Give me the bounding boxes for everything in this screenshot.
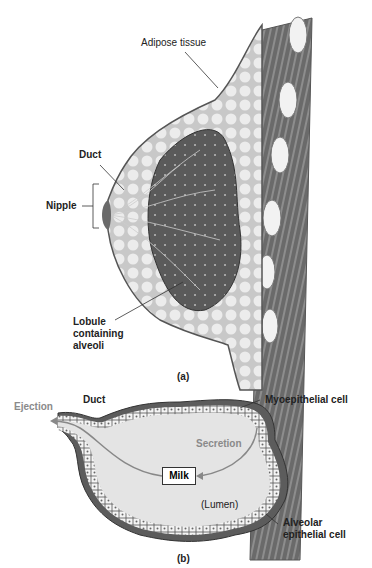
label-myoepithelial-cell: Myoepithelial cell	[265, 394, 348, 406]
rib	[279, 82, 297, 118]
label-secretion: Secretion	[196, 438, 242, 450]
label-ejection: Ejection	[14, 401, 53, 413]
label-lobule-2: containing	[73, 328, 124, 340]
rib	[262, 309, 278, 343]
label-duct-b: Duct	[83, 394, 105, 406]
nipple	[102, 200, 111, 230]
label-lobule-3: alveoli	[73, 340, 104, 352]
label-adipose-tissue: Adipose tissue	[141, 37, 206, 49]
caption-a: (a)	[177, 371, 189, 383]
label-lobule-1: Lobule	[73, 316, 106, 328]
label-nipple: Nipple	[46, 200, 77, 212]
rib	[263, 200, 281, 236]
rib	[289, 17, 307, 53]
label-duct: Duct	[79, 149, 101, 161]
caption-b: (b)	[177, 553, 190, 565]
milk-box: Milk	[162, 467, 196, 485]
label-alveolar-2: epithelial cell	[283, 529, 346, 541]
label-alveolar-1: Alveolar	[283, 517, 322, 529]
label-lumen: (Lumen)	[201, 499, 238, 511]
rib	[271, 137, 289, 173]
